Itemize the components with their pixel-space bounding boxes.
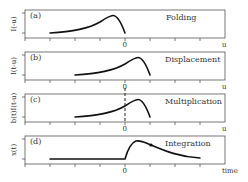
panel-c-ylabel: b(t)I(t-u) xyxy=(10,92,18,123)
panel-a: (a) Folding 0 u I(-u) xyxy=(10,10,227,49)
panel-c: (c) Multiplication 0 u b(t)I(t-u) xyxy=(10,88,227,133)
panel-a-tag: (a) xyxy=(30,11,41,20)
multiplied-curve xyxy=(75,100,150,118)
panel-d-xlabel: time xyxy=(222,167,238,175)
folded-kernel-curve xyxy=(50,16,125,34)
panel-a-xlabel: u xyxy=(222,41,227,49)
panel-d-zero: 0 xyxy=(123,167,127,175)
panel-a-ylabel: I(-u) xyxy=(10,16,18,31)
panel-c-zero: 0 xyxy=(123,125,127,133)
panel-b-xlabel: u xyxy=(222,83,227,91)
panel-c-xlabel: u xyxy=(222,125,227,133)
panel-b-title: Displacement xyxy=(165,55,221,64)
panel-c-tag: (c) xyxy=(30,95,41,104)
panel-a-zero: 0 xyxy=(123,41,127,49)
panel-b: (b) Displacement 0 u I(t-u) xyxy=(10,52,227,91)
panel-b-ylabel: I(t-u) xyxy=(10,57,18,75)
panel-d-ylabel: x(t) xyxy=(10,144,18,156)
panel-a-title: Folding xyxy=(166,13,196,22)
displaced-kernel-curve xyxy=(75,58,150,76)
current-time-marker xyxy=(149,143,152,146)
panel-d-tag: (d) xyxy=(30,137,41,146)
convolution-diagram: (a) Folding 0 u I(-u) (b) Displacement 0… xyxy=(0,0,248,182)
panel-b-tag: (b) xyxy=(30,53,41,62)
panel-d-title: Integration xyxy=(165,139,211,148)
panel-c-title: Multiplication xyxy=(165,97,222,106)
panel-d: (d) Integration 0 time x(t) xyxy=(10,136,238,175)
